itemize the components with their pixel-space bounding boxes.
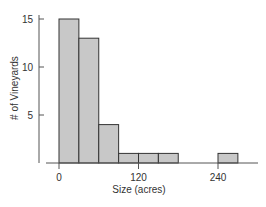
x-axis-ticks: 0120240 [56,163,227,183]
y-tick-label: 10 [22,62,34,73]
histogram-bars [59,19,238,163]
y-tick-label: 5 [27,110,33,121]
y-axis-ticks: 51015 [22,14,44,121]
x-tick-label: 120 [130,172,147,183]
histogram-chart: 51015 0120240 Size (acres) # of Vineyard… [0,0,266,207]
histogram-bar [59,19,79,163]
histogram-bar [99,125,119,163]
x-tick-label: 240 [210,172,227,183]
histogram-bar [119,153,139,163]
histogram-bar [158,153,178,163]
histogram-bar [79,38,99,163]
histogram-bar [139,153,159,163]
y-tick-label: 15 [22,14,34,25]
y-axis-title: # of Vineyards [9,56,20,120]
x-tick-label: 0 [56,172,62,183]
x-axis-title: Size (acres) [112,184,165,195]
histogram-bar [218,153,238,163]
